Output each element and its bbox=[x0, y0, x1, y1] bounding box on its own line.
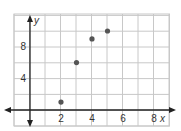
y-axis-arrow-up-icon bbox=[27, 15, 33, 22]
x-tick-label: 6 bbox=[120, 113, 126, 124]
x-tick-label: 8 bbox=[151, 113, 157, 124]
grid bbox=[14, 14, 170, 126]
data-points bbox=[58, 28, 110, 104]
data-point bbox=[105, 28, 110, 33]
x-axis-label: x bbox=[159, 113, 166, 124]
tick-labels: 246848 bbox=[20, 41, 157, 124]
x-axis-arrow-left-icon bbox=[4, 107, 11, 113]
axes bbox=[4, 15, 176, 127]
x-axis-arrow-right-icon bbox=[169, 107, 176, 113]
x-tick-label: 4 bbox=[89, 113, 95, 124]
data-point bbox=[89, 36, 94, 41]
data-point bbox=[58, 100, 63, 105]
scatter-chart: 246848 x y bbox=[0, 0, 181, 131]
y-axis-label: y bbox=[33, 15, 40, 26]
data-point bbox=[74, 60, 79, 65]
y-tick-label: 4 bbox=[20, 73, 26, 84]
x-tick-label: 2 bbox=[58, 113, 64, 124]
y-tick-label: 8 bbox=[20, 41, 26, 52]
